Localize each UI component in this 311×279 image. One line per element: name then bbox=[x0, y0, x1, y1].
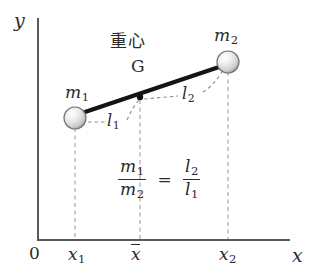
center-of-gravity-figure: y x 0 x1 x x2 m1 m2 l1 l2 重心 G m1 bbox=[0, 0, 311, 279]
formula-right-denominator: l1 bbox=[183, 180, 200, 201]
leader-l1-to-g bbox=[127, 100, 139, 120]
tick-label-x2-sub: 2 bbox=[229, 252, 236, 266]
length-l1-label-sub: 1 bbox=[113, 119, 120, 132]
ratio-formula: m1 m2 = l2 l1 bbox=[118, 158, 200, 201]
formula-left-numerator-sub: 1 bbox=[137, 164, 144, 178]
formula-left-denominator: m2 bbox=[118, 180, 146, 201]
formula-left-numerator: m1 bbox=[118, 158, 146, 180]
mass-m2-label: m2 bbox=[214, 27, 238, 47]
formula-right-numerator-base: l bbox=[185, 156, 190, 176]
formula-left-numerator-base: m bbox=[120, 156, 136, 176]
formula-right-denominator-base: l bbox=[185, 179, 190, 199]
leader-l2-from-g bbox=[144, 96, 178, 99]
length-l2-label-sub: 2 bbox=[188, 92, 195, 105]
leader-l2-to-m2 bbox=[203, 72, 222, 92]
center-of-gravity-caption-jp: 重心 bbox=[110, 33, 146, 50]
mass-m1-label-sub: 1 bbox=[82, 90, 89, 104]
tick-label-xbar-base: x bbox=[131, 246, 141, 263]
diagram-canvas bbox=[0, 0, 311, 279]
mass-m2-ball bbox=[217, 51, 239, 73]
formula-equals-sign: = bbox=[151, 171, 177, 188]
tick-label-x1: x1 bbox=[68, 246, 85, 266]
origin-label: 0 bbox=[29, 245, 40, 262]
length-l1-label: l1 bbox=[107, 113, 120, 132]
formula-right-numerator-sub: 2 bbox=[191, 164, 198, 178]
mass-m1-label-base: m bbox=[65, 82, 81, 102]
formula-left-fraction: m1 m2 bbox=[118, 158, 146, 201]
tick-label-xbar: x bbox=[131, 246, 141, 263]
formula-right-denominator-sub: 1 bbox=[191, 187, 198, 201]
tick-label-x1-base: x bbox=[68, 244, 78, 264]
y-axis-label: y bbox=[14, 11, 25, 30]
mass-m1-label: m1 bbox=[65, 84, 89, 104]
formula-left-denominator-base: m bbox=[120, 179, 136, 199]
length-l1-label-base: l bbox=[107, 111, 112, 130]
mass-m1-ball bbox=[64, 107, 86, 129]
tick-label-x2: x2 bbox=[219, 246, 236, 266]
mass-m2-label-base: m bbox=[214, 25, 230, 45]
center-of-gravity-point bbox=[137, 94, 143, 100]
length-l2-label-base: l bbox=[182, 84, 187, 103]
length-l2-label: l2 bbox=[182, 86, 195, 105]
tick-label-x1-sub: 1 bbox=[78, 252, 85, 266]
rod-segment bbox=[79, 65, 225, 114]
formula-left-denominator-sub: 2 bbox=[137, 187, 144, 201]
formula-right-fraction: l2 l1 bbox=[183, 158, 200, 201]
tick-label-x2-base: x bbox=[219, 244, 229, 264]
x-axis-label: x bbox=[292, 246, 303, 265]
center-of-gravity-point-label: G bbox=[131, 58, 145, 75]
formula-right-numerator: l2 bbox=[183, 158, 200, 180]
mass-m2-label-sub: 2 bbox=[231, 33, 238, 47]
guide-lines-group bbox=[75, 72, 228, 239]
